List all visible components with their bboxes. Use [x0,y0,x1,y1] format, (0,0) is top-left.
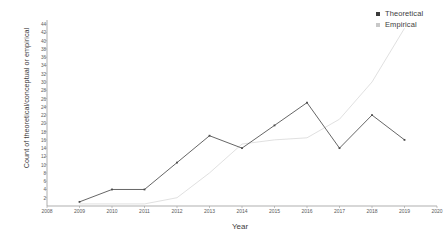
x-axis-tick-labels: 2008200920102011201220132014201520162017… [0,208,447,220]
x-tick-label: 2015 [258,208,292,214]
data-point-marker [371,114,373,116]
x-tick-label: 2008 [30,208,64,214]
data-point-marker [404,139,406,141]
x-tick-label: 2013 [193,208,227,214]
x-tick-label: 2012 [160,208,194,214]
data-point-marker [144,189,146,191]
series-markers-theoretical [79,102,406,203]
data-point-marker [79,201,81,203]
x-tick-label: 2011 [128,208,162,214]
plot-area [0,0,447,240]
x-tick-label: 2020 [420,208,447,214]
line-chart: Theoretical Empirical Count of theoretic… [0,0,447,240]
series-line-empirical [80,28,405,204]
data-point-marker [209,135,211,137]
x-tick-label: 2009 [63,208,97,214]
x-axis-title: Year [45,222,435,231]
data-point-marker [274,125,276,127]
x-tick-label: 2016 [290,208,324,214]
x-tick-label: 2018 [355,208,389,214]
data-point-marker [241,147,243,149]
data-point-marker [176,162,178,164]
axis-lines [47,20,437,206]
data-point-marker [111,189,113,191]
x-tick-label: 2014 [225,208,259,214]
x-tick-label: 2019 [388,208,422,214]
series-line-theoretical [80,103,405,202]
data-point-marker [339,147,341,149]
x-tick-label: 2017 [323,208,357,214]
data-point-marker [306,102,308,104]
x-tick-label: 2010 [95,208,129,214]
